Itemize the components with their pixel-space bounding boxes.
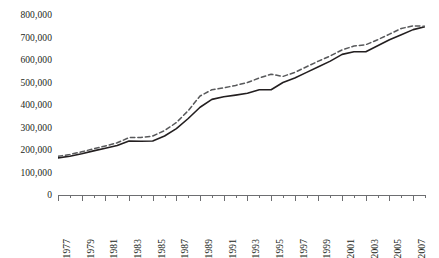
x-axis-tick — [330, 195, 331, 198]
y-axis-tick-label: 800,000 — [20, 10, 52, 20]
x-axis-tick-label: 1991 — [228, 239, 238, 258]
x-axis-tick — [117, 195, 118, 198]
x-axis-tick — [401, 195, 402, 198]
y-axis-tick-label: 700,000 — [20, 33, 52, 43]
x-axis-tick — [141, 195, 142, 198]
y-axis-tick-label: 200,000 — [20, 145, 52, 155]
x-axis-tick-label: 2007 — [417, 239, 427, 258]
x-axis-tick-label: 1977 — [62, 239, 72, 258]
x-axis-tick — [188, 195, 189, 198]
x-axis-tick — [307, 195, 308, 198]
x-axis-tick-label: 2001 — [346, 239, 356, 258]
x-axis-tick-label: 1999 — [322, 239, 332, 258]
x-axis-tick-label: 1993 — [251, 239, 261, 258]
x-axis-tick — [283, 195, 284, 198]
y-axis-tick-label: 100,000 — [20, 168, 52, 178]
series-canvas — [58, 15, 425, 195]
x-axis-tick-label: 1997 — [299, 239, 309, 258]
x-axis-tick — [70, 195, 71, 198]
x-axis-tick-label: 1983 — [133, 239, 143, 258]
x-axis-tick-label: 1995 — [275, 239, 285, 258]
y-axis-tick-label: 300,000 — [20, 123, 52, 133]
x-axis-tick-label: 1985 — [157, 239, 167, 258]
x-axis-tick — [236, 195, 237, 198]
x-axis-tick — [94, 195, 95, 198]
x-axis-tick — [212, 195, 213, 198]
x-axis-tick — [378, 195, 379, 198]
x-axis-tick — [354, 195, 355, 198]
series-line-solid — [58, 27, 425, 158]
y-axis: 800,000700,000600,000500,000400,000300,0… — [0, 0, 56, 242]
x-axis-tick-label: 1981 — [109, 239, 119, 258]
x-axis-tick-label: 1989 — [204, 239, 214, 258]
x-axis-tick — [425, 195, 426, 198]
x-axis-tick-label: 2005 — [393, 239, 403, 258]
plot-area — [58, 15, 425, 195]
y-axis-tick-label: 400,000 — [20, 100, 52, 110]
y-axis-tick-label: 0 — [47, 190, 52, 200]
y-axis-tick-label: 500,000 — [20, 78, 52, 88]
x-axis-tick-label: 2003 — [370, 239, 380, 258]
x-axis-tick-label: 1979 — [86, 239, 96, 258]
series-line-dashed — [58, 26, 425, 157]
x-axis-tick — [165, 195, 166, 198]
y-axis-tick-label: 600,000 — [20, 55, 52, 65]
x-axis-labels: 1977197919811983198519871989199119931995… — [58, 201, 425, 242]
x-axis-tick — [259, 195, 260, 198]
x-axis-tick-label: 1987 — [180, 239, 190, 258]
